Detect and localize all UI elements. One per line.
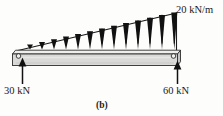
load-arrow-9 — [123, 23, 129, 49]
distributed-load-label: 20 kN/m — [176, 5, 213, 16]
load-arrow-3 — [51, 39, 57, 49]
beam-diagram-svg — [0, 0, 223, 116]
load-arrow-10 — [135, 20, 141, 49]
left-reaction-label: 30 kN — [4, 86, 30, 97]
load-arrow-6 — [87, 31, 93, 49]
load-arrow-7 — [99, 29, 105, 50]
load-arrow-8 — [111, 26, 117, 50]
load-arrow-12 — [159, 15, 165, 50]
support-left-pin — [16, 54, 21, 59]
load-arrow-4 — [63, 37, 69, 50]
load-arrow-5 — [75, 34, 81, 50]
beam-body — [13, 50, 181, 65]
right-reaction-label: 60 kN — [163, 86, 189, 97]
load-arrow-11 — [147, 18, 153, 50]
support-right-pin — [171, 54, 176, 59]
figure-caption: (b) — [96, 101, 108, 111]
